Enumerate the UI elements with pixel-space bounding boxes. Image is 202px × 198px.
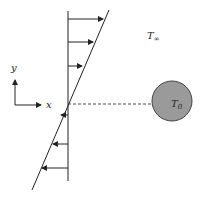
velocity-arrows-negative bbox=[42, 115, 68, 168]
velocity-profile-diagram: y x T0 T∞ bbox=[0, 0, 202, 198]
ambient-temperature-label: T∞ bbox=[147, 30, 160, 43]
x-axis-label: x bbox=[46, 99, 52, 110]
coordinate-axes: y x bbox=[10, 62, 52, 110]
velocity-profile-line bbox=[32, 10, 109, 190]
velocity-arrows-positive bbox=[68, 19, 103, 66]
y-axis-label: y bbox=[10, 62, 17, 73]
